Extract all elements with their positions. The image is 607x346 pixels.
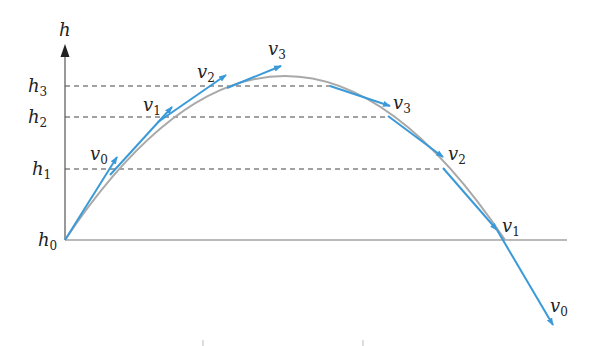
level-labels: h3 h2 h1 h0	[28, 75, 57, 253]
label-v3-up: v3	[268, 38, 286, 62]
vector-v0-down	[497, 230, 553, 325]
label-h2: h2	[28, 106, 47, 130]
vector-v2-up	[158, 75, 226, 122]
label-v0-down: v0	[550, 295, 568, 319]
level-lines	[65, 86, 445, 169]
descending-vectors	[330, 86, 553, 325]
label-v3-down: v3	[393, 92, 411, 116]
label-v1-up: v1	[143, 94, 161, 118]
height-axis-arrow-icon	[61, 44, 70, 57]
label-v1-down: v1	[502, 215, 520, 239]
label-v2-down: v2	[448, 143, 466, 167]
label-v2-up: v2	[197, 61, 215, 85]
vector-v1-down	[443, 168, 497, 230]
label-v0-up: v0	[90, 143, 108, 167]
vector-v3-down	[330, 86, 390, 106]
vector-v2-down	[388, 116, 443, 157]
trajectory-curve-extension	[505, 240, 530, 282]
height-axis-label: h	[59, 19, 71, 40]
trajectory-curve	[65, 76, 505, 240]
vector-v0-up	[65, 157, 117, 240]
label-h1: h1	[32, 158, 51, 182]
label-h3: h3	[28, 75, 47, 99]
label-h0: h0	[38, 229, 57, 253]
projectile-diagram: h h3 h2 h1 h0 v0 v1 v2 v3 v3 v2 v1 v0	[0, 0, 607, 346]
